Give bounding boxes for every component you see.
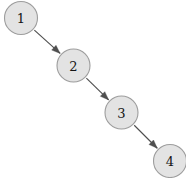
node-label-2: 2: [69, 59, 77, 74]
node-3[interactable]: 3: [105, 96, 138, 129]
node-4[interactable]: 4: [154, 145, 187, 178]
node-2[interactable]: 2: [57, 49, 90, 82]
node-label-4: 4: [166, 154, 174, 169]
graph-diagram: 1234: [0, 0, 186, 178]
node-label-1: 1: [17, 11, 25, 26]
node-1[interactable]: 1: [5, 2, 38, 35]
node-label-3: 3: [117, 106, 125, 121]
nodes-layer: 1234: [5, 2, 187, 178]
graph-canvas: 1234: [0, 0, 186, 178]
edges-layer: [34, 30, 157, 148]
